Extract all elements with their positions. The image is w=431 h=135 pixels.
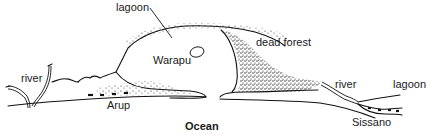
left-river [6,64,52,108]
label-dead-forest: dead forest [256,36,311,48]
lagoon-coast-diagram: lagoon Warapu dead forest river Arup riv… [0,0,431,135]
label-arup: Arup [107,99,130,111]
label-ocean: Ocean [185,120,219,132]
label-lagoon-right: lagoon [393,78,426,90]
label-sissano: Sissano [352,116,391,128]
label-warapu: Warapu [153,54,191,66]
label-lagoon-top: lagoon [116,1,149,13]
warapu-island [189,45,205,58]
label-river-right: river [335,78,357,90]
left-coast-link [52,79,78,82]
label-river-left: river [21,72,43,84]
